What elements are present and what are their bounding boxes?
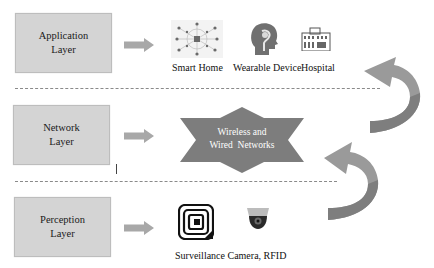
perception-layer-line2: Layer <box>40 227 85 241</box>
curved-up-arrow-icon <box>324 136 386 222</box>
network-star-line1: Wireless and <box>206 126 278 139</box>
network-star-label: Wireless and Wired Networks <box>206 126 278 152</box>
application-layer-box: Application Layer <box>15 13 112 73</box>
right-arrow-icon <box>124 38 154 52</box>
right-arrow-icon <box>124 221 154 235</box>
perception-layer-line1: Perception <box>40 213 85 227</box>
wearable-device-label: Wearable Device <box>233 62 301 73</box>
application-layer-line1: Application <box>39 29 89 43</box>
hospital-building-icon <box>301 27 331 51</box>
layer-separator <box>15 181 337 182</box>
curved-up-arrow-icon <box>360 55 428 135</box>
smart-home-network-icon <box>171 20 223 58</box>
application-layer-line2: Layer <box>39 43 89 57</box>
perception-devices-label: Surveillance Camera, RFID <box>175 250 286 261</box>
network-star-line2: Wired Networks <box>206 139 278 152</box>
network-layer-line2: Layer <box>43 135 80 149</box>
layer-separator <box>15 88 380 89</box>
network-layer-line1: Network <box>43 121 80 135</box>
head-brain-icon <box>249 21 279 55</box>
dome-camera-icon <box>244 206 272 232</box>
smart-home-label: Smart Home <box>172 62 223 73</box>
rfid-tag-icon <box>178 204 214 240</box>
hospital-label: Hospital <box>301 62 335 73</box>
right-arrow-icon <box>124 129 154 143</box>
tick-mark <box>116 164 117 174</box>
perception-layer-box: Perception Layer <box>14 197 111 257</box>
network-layer-box: Network Layer <box>13 105 110 165</box>
